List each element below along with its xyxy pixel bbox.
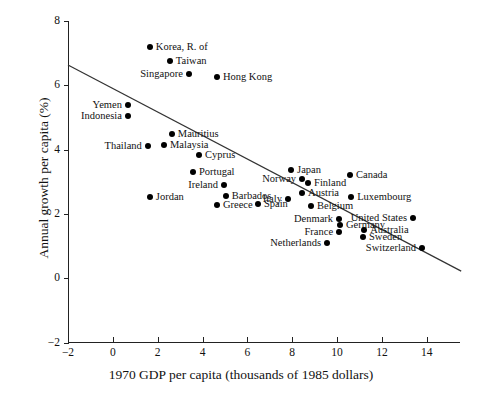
x-tick <box>247 337 248 342</box>
x-tick-label: 14 <box>421 347 433 359</box>
data-point-label: Yemen <box>93 100 122 111</box>
x-tick <box>203 337 204 342</box>
y-axis-label: Annual growth per capita (%) <box>36 48 52 308</box>
data-point-label: Switzerland <box>366 243 416 254</box>
data-point-label: Thailand <box>104 141 141 152</box>
data-point[interactable] <box>337 222 343 228</box>
data-point[interactable] <box>167 58 173 64</box>
data-point[interactable] <box>145 143 151 149</box>
y-tick <box>64 85 69 86</box>
data-point-label: Austria <box>308 188 339 199</box>
data-point[interactable] <box>336 229 342 235</box>
data-point-label: Norway <box>262 174 296 185</box>
data-point-label: Taiwan <box>176 56 207 67</box>
y-tick <box>64 21 69 22</box>
data-point[interactable] <box>308 203 314 209</box>
data-point-label: Korea, R. of <box>156 42 208 53</box>
x-tick-label: 12 <box>376 347 388 359</box>
data-point[interactable] <box>221 182 227 188</box>
data-point-label: Portugal <box>199 167 235 178</box>
data-point[interactable] <box>410 215 416 221</box>
y-tick <box>64 214 69 215</box>
x-tick <box>337 337 338 342</box>
data-point[interactable] <box>347 172 353 178</box>
y-tick-label: −2 <box>40 337 60 349</box>
data-point[interactable] <box>305 180 311 186</box>
x-tick <box>292 337 293 342</box>
data-point[interactable] <box>147 194 153 200</box>
data-point[interactable] <box>255 201 261 207</box>
data-point[interactable] <box>299 190 305 196</box>
data-point[interactable] <box>214 74 220 80</box>
y-tick <box>64 343 69 344</box>
x-tick <box>158 337 159 342</box>
x-tick-label: 2 <box>155 347 161 359</box>
data-point[interactable] <box>361 227 367 233</box>
y-tick-label: 8 <box>40 15 60 27</box>
data-point-label: Italy <box>263 194 282 205</box>
x-axis-line <box>68 342 460 343</box>
data-point-label: Cyprus <box>205 150 235 161</box>
x-tick <box>68 337 69 342</box>
x-tick-label: 8 <box>289 347 295 359</box>
x-tick <box>382 337 383 342</box>
y-tick <box>64 278 69 279</box>
data-point-label: Luxembourg <box>357 192 411 203</box>
x-axis-label: 1970 GDP per capita (thousands of 1985 d… <box>0 367 482 383</box>
data-point-label: Indonesia <box>81 111 122 122</box>
data-point[interactable] <box>169 131 175 137</box>
x-tick-label: 4 <box>200 347 206 359</box>
data-point-label: Malaysia <box>170 140 209 151</box>
data-point[interactable] <box>419 245 425 251</box>
data-point-label: Japan <box>297 165 321 176</box>
data-point[interactable] <box>186 71 192 77</box>
data-point[interactable] <box>360 234 366 240</box>
x-tick <box>427 337 428 342</box>
scatter-plot: −202468101214 −202468 Korea, R. ofTaiwan… <box>0 0 482 407</box>
y-tick <box>64 150 69 151</box>
data-point-label: Hong Kong <box>223 72 272 83</box>
data-point-label: United States <box>351 213 407 224</box>
data-point-label: Singapore <box>140 69 183 80</box>
data-point-label: Netherlands <box>270 237 321 248</box>
data-point-label: Ireland <box>188 180 218 191</box>
x-tick <box>113 337 114 342</box>
data-point[interactable] <box>125 102 131 108</box>
data-point-label: Belgium <box>317 201 353 212</box>
data-point[interactable] <box>348 194 354 200</box>
x-tick-label: 6 <box>245 347 251 359</box>
data-point-label: Greece <box>223 200 253 211</box>
data-point[interactable] <box>196 152 202 158</box>
y-axis-line <box>68 21 69 343</box>
data-point[interactable] <box>125 113 131 119</box>
data-point-label: Denmark <box>294 214 333 225</box>
data-point-label: Canada <box>356 170 388 181</box>
data-point[interactable] <box>161 142 167 148</box>
x-tick-label: −2 <box>62 347 74 359</box>
x-tick-label: 0 <box>110 347 116 359</box>
data-point-label: Mauritius <box>178 129 219 140</box>
data-point[interactable] <box>285 196 291 202</box>
data-point-label: Jordan <box>156 192 184 203</box>
data-point[interactable] <box>324 240 330 246</box>
data-point[interactable] <box>190 169 196 175</box>
x-tick-label: 10 <box>331 347 343 359</box>
data-point[interactable] <box>147 44 153 50</box>
data-point[interactable] <box>214 202 220 208</box>
